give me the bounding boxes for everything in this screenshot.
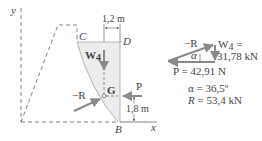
y-axis-label: y: [10, 4, 16, 16]
triangle-reaction-label: −R: [184, 37, 198, 49]
point-b-label: B: [115, 123, 122, 135]
reaction-label: −R: [72, 89, 86, 101]
pressure-label: P: [136, 80, 142, 92]
point-d-label: D: [122, 35, 131, 47]
dam-outline: [21, 25, 77, 122]
centroid-g: [102, 94, 106, 98]
weight-label: W4: [85, 49, 101, 63]
triangle-pressure-value: P = 42,91 N: [173, 65, 226, 77]
force-triangle: −R α W4= 31,78 kN P = 42,91 N: [168, 37, 258, 77]
dam-diagram: y x C D B 1,2 m W4 G P 1,8 m −R −R α W4=…: [0, 0, 262, 141]
triangle-angle-label: α: [191, 49, 197, 61]
vertical-dimension-label: 1,8 m: [126, 103, 149, 114]
point-c-label: C: [79, 30, 87, 42]
x-axis-label: x: [150, 121, 156, 133]
result-alpha: α = 36,5º: [188, 82, 229, 94]
result-r: R = 53,4 kN: [187, 94, 242, 106]
centroid-g-label: G: [107, 84, 116, 96]
triangle-weight-value: 31,78 kN: [217, 50, 258, 62]
horizontal-dimension-label: 1,2 m: [102, 13, 125, 24]
